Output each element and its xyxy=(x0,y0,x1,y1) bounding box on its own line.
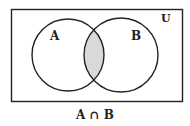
set-b-label: B xyxy=(131,29,141,43)
venn-diagram: A B U A ∩ B xyxy=(0,0,190,126)
universe-label: U xyxy=(161,12,171,25)
caption: A ∩ B xyxy=(75,108,114,122)
set-a-label: A xyxy=(49,29,60,43)
